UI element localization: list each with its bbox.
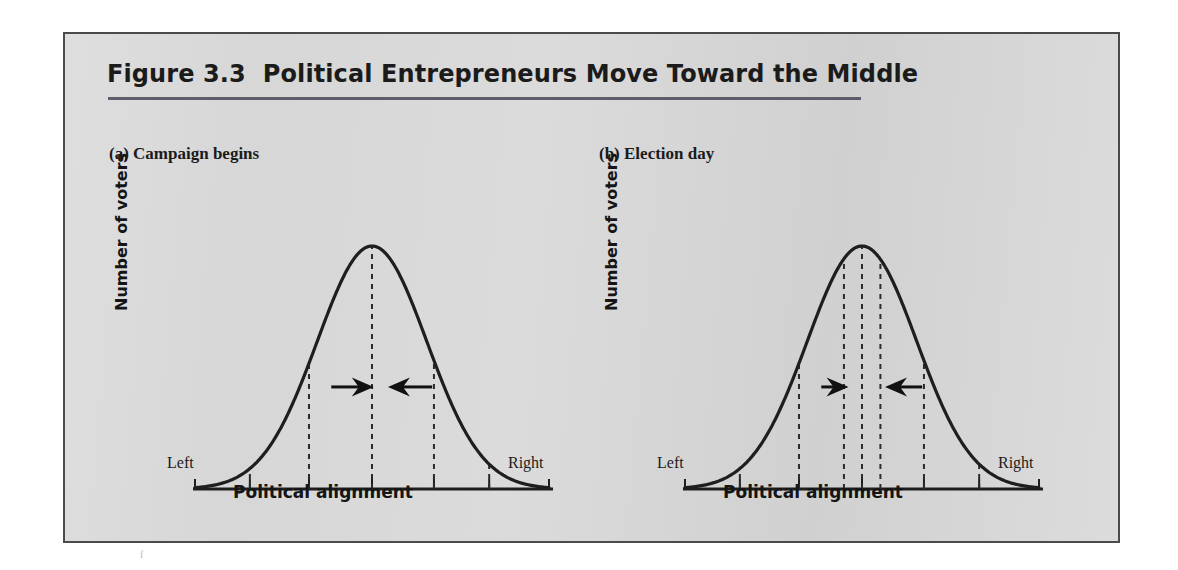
title-underline-rule — [108, 97, 861, 100]
chart-b-y-axis-label: Number of voters — [602, 153, 621, 311]
annotation-arrow-right — [821, 377, 848, 396]
annotation-arrow-left — [388, 377, 432, 396]
chart-a-canvas — [95, 184, 565, 524]
chart-a-x-axis-right-label: Right — [508, 454, 544, 472]
chart-b-canvas — [585, 184, 1055, 524]
page-speck: ſ — [140, 548, 146, 558]
figure-page: Figure 3.3 Political Entrepreneurs Move … — [0, 0, 1178, 570]
panel-a-caption: (a) Campaign begins — [109, 144, 259, 164]
annotation-arrow-right — [331, 377, 373, 396]
chart-panel-a — [95, 184, 565, 524]
chart-b-x-axis-title: Political alignment — [723, 482, 903, 502]
figure-panel: Figure 3.3 Political Entrepreneurs Move … — [63, 32, 1120, 543]
page-title: Figure 3.3 Political Entrepreneurs Move … — [107, 60, 918, 88]
chart-b-x-axis-right-label: Right — [998, 454, 1034, 472]
chart-a-y-axis-label: Number of voters — [112, 153, 131, 311]
chart-a-x-axis-title: Political alignment — [233, 482, 413, 502]
annotation-arrow-left — [885, 377, 922, 396]
chart-a-x-axis-left-label: Left — [167, 454, 194, 472]
chart-panel-b — [585, 184, 1055, 524]
chart-b-x-axis-left-label: Left — [657, 454, 684, 472]
